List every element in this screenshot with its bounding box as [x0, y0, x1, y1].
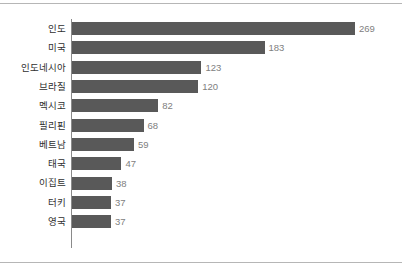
category-label-미국: 미국 [0, 38, 66, 57]
bar-row: 멕시코82 [0, 96, 402, 115]
bar-and-value: 37 [72, 212, 126, 231]
bar-미국 [72, 41, 265, 54]
category-label-이집트: 이집트 [0, 173, 66, 192]
value-label-필리핀: 68 [148, 119, 159, 132]
bar-and-value: 269 [72, 19, 375, 38]
value-label-베트남: 59 [138, 138, 149, 151]
bar-필리핀 [72, 119, 144, 132]
category-label-태국: 태국 [0, 154, 66, 173]
value-label-미국: 183 [269, 41, 285, 54]
bar-row: 필리핀68 [0, 116, 402, 135]
bar-and-value: 47 [72, 154, 136, 173]
bar-row: 브라질120 [0, 77, 402, 96]
bar-and-value: 59 [72, 135, 149, 154]
category-label-베트남: 베트남 [0, 135, 66, 154]
bar-row: 영국37 [0, 212, 402, 231]
bar-row: 미국183 [0, 38, 402, 57]
bar-터키 [72, 196, 111, 209]
bar-and-value: 37 [72, 193, 126, 212]
bar-인도 [72, 22, 355, 35]
bar-and-value: 82 [72, 96, 173, 115]
value-label-영국: 37 [115, 215, 126, 228]
bar-베트남 [72, 138, 134, 151]
value-label-이집트: 38 [116, 177, 127, 190]
value-label-인도: 269 [359, 22, 375, 35]
category-label-인도: 인도 [0, 19, 66, 38]
bar-and-value: 123 [72, 58, 221, 77]
category-label-터키: 터키 [0, 193, 66, 212]
bar-이집트 [72, 177, 112, 190]
bar-and-value: 38 [72, 173, 127, 192]
bar-and-value: 68 [72, 116, 158, 135]
bar-chart-figure: 인도269미국183인도네시아123브라질120멕시코82필리핀68베트남59태… [0, 0, 402, 272]
bar-영국 [72, 215, 111, 228]
category-label-영국: 영국 [0, 212, 66, 231]
bar-row: 터키37 [0, 193, 402, 212]
bar-태국 [72, 157, 121, 170]
value-label-인도네시아: 123 [205, 61, 221, 74]
bar-and-value: 120 [72, 77, 218, 96]
category-label-필리핀: 필리핀 [0, 116, 66, 135]
bottom-divider-rule [0, 262, 402, 263]
bar-row: 베트남59 [0, 135, 402, 154]
bar-row: 태국47 [0, 154, 402, 173]
bar-브라질 [72, 80, 198, 93]
category-label-브라질: 브라질 [0, 77, 66, 96]
bar-row: 인도네시아123 [0, 58, 402, 77]
value-label-터키: 37 [115, 196, 126, 209]
bar-인도네시아 [72, 61, 201, 74]
bar-멕시코 [72, 99, 158, 112]
value-label-멕시코: 82 [162, 99, 173, 112]
bar-row: 인도269 [0, 19, 402, 38]
category-label-인도네시아: 인도네시아 [0, 58, 66, 77]
bar-and-value: 183 [72, 38, 284, 57]
category-label-멕시코: 멕시코 [0, 96, 66, 115]
bar-row: 이집트38 [0, 173, 402, 192]
value-label-브라질: 120 [202, 80, 218, 93]
plot-area: 인도269미국183인도네시아123브라질120멕시코82필리핀68베트남59태… [0, 16, 402, 252]
value-label-태국: 47 [125, 157, 136, 170]
top-divider-rule [0, 3, 402, 4]
